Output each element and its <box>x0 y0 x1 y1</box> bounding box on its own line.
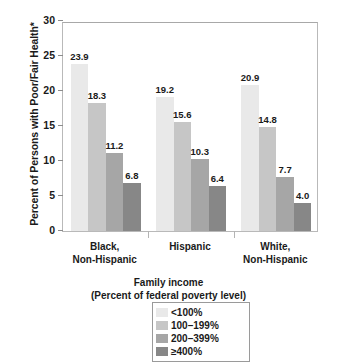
y-axis-tick-mark <box>58 20 63 21</box>
bar-group: 20.914.87.74.0 <box>241 23 311 231</box>
y-axis-tick-mark <box>58 195 63 196</box>
x-axis-title-line1: Family income <box>0 276 337 289</box>
x-axis-title: Family income (Percent of federal povert… <box>0 276 337 302</box>
bar[interactable] <box>191 159 209 231</box>
bar[interactable] <box>106 153 124 231</box>
y-axis-tick-mark <box>58 55 63 56</box>
y-axis-tick-mark <box>58 230 63 231</box>
bar-slot: 6.8 <box>123 23 141 231</box>
legend-label: 100–199% <box>171 320 219 332</box>
legend: <100%100–199%200–399%≥400% <box>152 302 250 362</box>
y-axis-tick-mark <box>58 90 63 91</box>
bar[interactable] <box>88 103 106 231</box>
bar-group-bars: 20.914.87.74.0 <box>241 23 311 231</box>
y-axis-tick-label: 25 <box>43 49 55 62</box>
bar-slot: 15.6 <box>174 23 192 231</box>
bar[interactable] <box>241 85 259 231</box>
x-axis-category-label: White, Non-Hispanic <box>233 241 318 266</box>
bar-value-label: 4.0 <box>287 190 319 201</box>
legend-label: <100% <box>171 307 202 319</box>
y-axis-tick-mark <box>58 125 63 126</box>
y-axis-tick-label: 5 <box>49 189 55 202</box>
legend-swatch <box>156 334 168 343</box>
y-axis-tick-label: 0 <box>49 224 55 237</box>
bar-slot: 23.9 <box>71 23 89 231</box>
legend-swatch <box>156 321 168 330</box>
x-axis-category-label: Black, Non-Hispanic <box>62 241 147 266</box>
bar-group: 19.215.610.36.4 <box>156 23 226 231</box>
legend-item[interactable]: <100% <box>156 306 246 319</box>
x-axis-title-line2: (Percent of federal poverty level) <box>0 289 337 302</box>
bar-value-label: 6.8 <box>116 170 148 181</box>
bar[interactable] <box>259 127 277 231</box>
bar-slot: 10.3 <box>191 23 209 231</box>
bar[interactable] <box>294 203 312 231</box>
y-axis-tick-label: 15 <box>43 119 55 132</box>
bar-slot: 18.3 <box>88 23 106 231</box>
legend-item[interactable]: 200–399% <box>156 332 246 345</box>
bar-slot: 14.8 <box>259 23 277 231</box>
bar-value-label: 6.4 <box>202 173 234 184</box>
y-axis-tick-label: 10 <box>43 154 55 167</box>
bar-slot: 19.2 <box>156 23 174 231</box>
plot-area: 051015202530 23.918.311.26.819.215.610.3… <box>62 22 318 232</box>
bar[interactable] <box>123 183 141 231</box>
bar[interactable] <box>209 186 227 231</box>
bar-group-bars: 19.215.610.36.4 <box>156 23 226 231</box>
y-axis-tick-label: 30 <box>43 14 55 27</box>
bar-slot: 11.2 <box>106 23 124 231</box>
y-axis-title: Percent of Persons with Poor/Fair Health… <box>28 17 40 232</box>
bar-group-bars: 23.918.311.26.8 <box>71 23 141 231</box>
y-axis-tick-mark <box>58 160 63 161</box>
legend-item[interactable]: 100–199% <box>156 319 246 332</box>
bar-slot: 20.9 <box>241 23 259 231</box>
bar[interactable] <box>174 122 192 231</box>
legend-swatch <box>156 347 168 356</box>
bar-slot: 4.0 <box>294 23 312 231</box>
plot-inner: 051015202530 23.918.311.26.819.215.610.3… <box>63 23 317 231</box>
group-separator-tick <box>234 231 235 238</box>
bar-group: 23.918.311.26.8 <box>71 23 141 231</box>
legend-label: 200–399% <box>171 333 219 345</box>
legend-item[interactable]: ≥400% <box>156 345 246 358</box>
group-separator-tick <box>148 231 149 238</box>
legend-swatch <box>156 308 168 317</box>
x-axis-category-label: Hispanic <box>147 241 232 254</box>
bar[interactable] <box>71 64 89 231</box>
legend-label: ≥400% <box>171 346 202 358</box>
y-axis-tick-label: 20 <box>43 84 55 97</box>
bar-slot: 6.4 <box>209 23 227 231</box>
bar[interactable] <box>276 177 294 231</box>
